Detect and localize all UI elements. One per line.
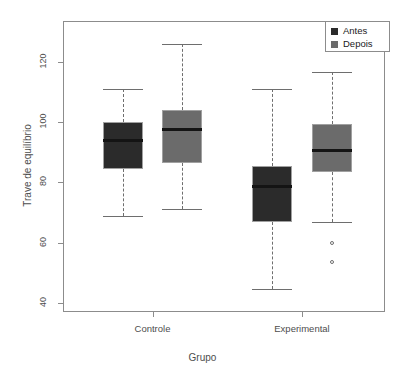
whisker-lower [272,222,273,290]
legend: Antes Depois [325,21,390,52]
median-line [103,139,143,142]
box [162,110,203,163]
box [103,122,143,169]
median-line [312,149,353,152]
boxplot-series-layer [0,0,405,379]
legend-label-depois: Depois [343,38,373,50]
whisker-lower [332,172,333,222]
whisker-upper [182,44,183,110]
whisker-cap-upper [252,89,292,90]
legend-item-antes: Antes [331,25,385,37]
whisker-upper [123,89,124,122]
whisker-cap-lower [252,289,292,290]
legend-item-depois: Depois [331,38,385,50]
median-line [162,128,203,131]
median-line [252,185,292,188]
whisker-cap-upper [312,72,353,73]
legend-swatch-depois [331,41,338,48]
legend-label-antes: Antes [343,25,367,37]
whisker-cap-upper [103,89,143,90]
box [312,124,353,172]
whisker-cap-lower [103,216,143,217]
whisker-upper [272,89,273,166]
legend-swatch-antes [331,28,338,35]
box [252,166,292,222]
whisker-cap-lower [312,222,353,223]
outlier-point [330,241,334,245]
whisker-cap-lower [162,209,203,210]
whisker-lower [123,169,124,216]
boxplot-figure: 406080100120 ControleExperimental Trave … [0,0,405,379]
outlier-point [330,260,334,264]
whisker-lower [182,163,183,210]
whisker-upper [332,72,333,123]
whisker-cap-upper [162,44,203,45]
